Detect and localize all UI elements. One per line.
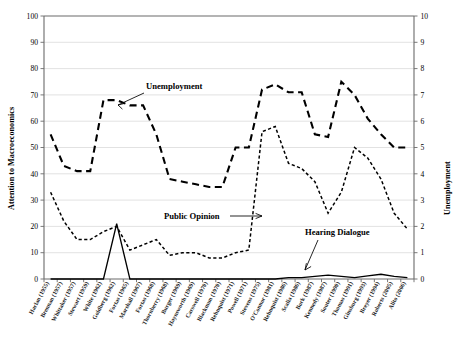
- annotation-unemployment-label: Unemployment: [146, 81, 202, 91]
- y-axis-right-ticks: 012345678910: [414, 12, 428, 284]
- y-right-tick-label: 0: [421, 275, 425, 284]
- y-left-tick-label: 0: [34, 275, 38, 284]
- y-right-tick-label: 3: [421, 196, 425, 205]
- y-right-tick-label: 4: [421, 170, 425, 179]
- y-right-tick-label: 9: [421, 38, 425, 47]
- annotation-hearing-dialogue-label: Hearing Dialogue: [305, 227, 370, 237]
- y-left-tick-label: 50: [30, 143, 38, 152]
- y-left-tick-label: 40: [30, 170, 38, 179]
- macroeconomics-attention-line-chart: 0102030405060708090100 012345678910 Atte…: [0, 0, 457, 349]
- y-left-tick-label: 90: [30, 38, 38, 47]
- y-right-tick-label: 7: [421, 91, 425, 100]
- y-left-tick-label: 20: [30, 222, 38, 231]
- chart-container: 0102030405060708090100 012345678910 Atte…: [0, 0, 457, 349]
- x-axis-category-labels: Harlan (1955)Brennan (1957)Whittaker (19…: [28, 281, 408, 328]
- y-left-tick-label: 60: [30, 117, 38, 126]
- y-left-tick-label: 70: [30, 91, 38, 100]
- y-right-tick-label: 5: [421, 143, 425, 152]
- y-left-tick-label: 10: [30, 248, 38, 257]
- y-axis-right-title: Unemployment: [443, 161, 452, 215]
- y-right-tick-label: 1: [421, 248, 425, 257]
- y-right-tick-label: 6: [421, 117, 425, 126]
- y-left-tick-label: 100: [27, 12, 39, 21]
- y-right-tick-label: 10: [421, 12, 429, 21]
- y-axis-left-ticks: 0102030405060708090100: [27, 12, 44, 284]
- y-axis-left-title: Attention to Macroeconomics: [7, 107, 16, 210]
- y-right-tick-label: 2: [421, 222, 425, 231]
- y-left-tick-label: 30: [30, 196, 38, 205]
- y-left-tick-label: 80: [30, 64, 38, 73]
- y-right-tick-label: 8: [421, 64, 425, 73]
- annotation-public-opinion-label: Public Opinion: [164, 211, 220, 221]
